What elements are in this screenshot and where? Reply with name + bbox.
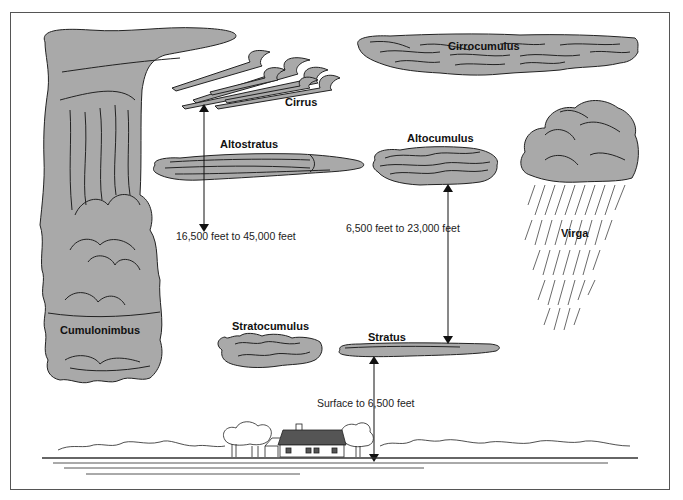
house — [265, 424, 346, 457]
altostratus-cloud — [153, 154, 363, 181]
low-altitude-range-label: Surface to 6,500 feet — [317, 397, 414, 409]
cumulonimbus-label: Cumulonimbus — [60, 324, 140, 336]
trees-left — [223, 422, 271, 457]
altocumulus-cloud — [373, 147, 497, 185]
trees-right — [341, 423, 373, 457]
ground-scene — [42, 422, 638, 474]
virga-label: Virga — [561, 227, 588, 239]
altocumulus-label: Altocumulus — [407, 132, 474, 144]
altostratus-label: Altostratus — [220, 138, 278, 150]
stratocumulus-cloud — [218, 333, 322, 367]
stratus-label: Stratus — [368, 331, 406, 343]
stratus-cloud — [339, 343, 499, 357]
mid-altitude-range-label: 6,500 feet to 23,000 feet — [346, 222, 460, 234]
cirrus-label: Cirrus — [285, 96, 317, 108]
high-altitude-range-label: 16,500 feet to 45,000 feet — [176, 230, 296, 242]
virga-cloud — [521, 101, 639, 331]
cirrocumulus-label: Cirrocumulus — [448, 40, 520, 52]
stratocumulus-label: Stratocumulus — [232, 320, 309, 332]
cloud-diagram — [0, 0, 683, 500]
virga-rain-streaks — [525, 185, 625, 330]
